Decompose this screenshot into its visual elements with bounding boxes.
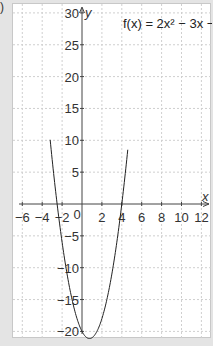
y-tick-label: −20 [57,324,79,339]
x-tick-label: −4 [35,210,50,225]
y-tick-label: −10 [57,261,79,276]
tick-labels: −6−4−202468101230252015105−5−10−15−20 [15,6,209,339]
function-label: f(x) = 2x² − 3x − 20 [123,16,212,31]
y-tick-label: 15 [65,101,79,116]
parabola-chart: −6−4−202468101230252015105−5−10−15−20 f(… [13,4,212,339]
y-tick-label: 20 [65,70,79,85]
grid-lines [13,4,212,339]
y-tick-label: 5 [72,165,79,180]
y-tick-label: −15 [57,293,79,308]
x-tick-label: −2 [55,210,70,225]
x-tick-label: 12 [194,210,208,225]
x-tick-label: 10 [174,210,188,225]
y-axis-label: y [84,5,93,20]
question-part-label: ) [0,0,4,14]
y-tick-label: −5 [64,229,79,244]
x-tick-label: 6 [138,210,145,225]
graph-area: −6−4−202468101230252015105−5−10−15−20 f(… [12,3,211,338]
x-tick-label: 2 [98,210,105,225]
x-tick-label: 8 [158,210,165,225]
x-tick-label: −6 [15,210,30,225]
x-axis-label: x [201,189,209,204]
x-tick-label: 0 [73,207,80,222]
y-tick-label: 30 [65,6,79,21]
axes [19,7,209,334]
y-tick-label: 10 [65,133,79,148]
y-tick-label: 25 [65,38,79,53]
